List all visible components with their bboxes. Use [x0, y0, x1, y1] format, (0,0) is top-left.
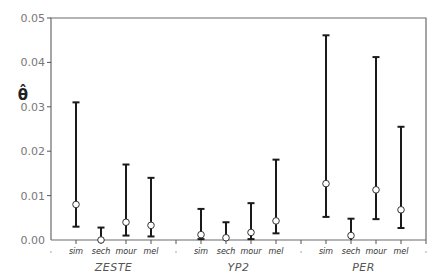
- errorbar-per-sech: [348, 219, 355, 240]
- y-tick-label: 0.00: [21, 234, 46, 247]
- group-label-yp2: YP2: [228, 261, 250, 274]
- x-tick-label-sim: sim: [319, 247, 333, 256]
- x-tick-spacer-dot: [50, 251, 52, 253]
- x-tick-label-sim: sim: [69, 247, 83, 256]
- errorbar-zeste-mel: [148, 178, 155, 237]
- group-label-zeste: ZESTE: [94, 261, 133, 274]
- x-tick-spacer-dot: [175, 251, 177, 253]
- estimate-marker: [273, 218, 280, 225]
- y-axis-label: θ̂: [18, 84, 28, 104]
- x-tick-label-sech: sech: [217, 247, 236, 256]
- estimate-marker: [223, 234, 230, 241]
- x-tick-label-mour: mour: [240, 247, 262, 256]
- x-tick-label-sech: sech: [342, 247, 361, 256]
- estimate-marker: [123, 219, 130, 226]
- y-tick-label: 0.04: [21, 56, 46, 69]
- errorbar-zeste-mour: [123, 165, 130, 236]
- errorbar-per-mour: [373, 57, 380, 219]
- x-tick-spacer-dot: [300, 251, 302, 253]
- x-tick-label-mel: mel: [269, 247, 285, 256]
- errorbar-zeste-sech: [98, 228, 105, 244]
- y-tick-label: 0.01: [21, 190, 46, 203]
- errorbar-zeste-sim: [73, 102, 80, 226]
- error-bars: [73, 35, 405, 243]
- estimate-marker: [198, 231, 205, 238]
- errorbar-yp2-mel: [273, 160, 280, 234]
- axes: [51, 18, 426, 240]
- y-tick-label: 0.02: [21, 145, 46, 158]
- estimate-marker: [248, 229, 255, 236]
- group-label-per: PER: [352, 261, 375, 274]
- x-tick-label-mour: mour: [365, 247, 387, 256]
- x-tick-spacer-dot: [425, 251, 427, 253]
- group-labels: ZESTEYP2PER: [94, 261, 375, 274]
- error-bar-chart: 0.000.010.020.030.040.05 simsechmourmels…: [0, 0, 439, 280]
- y-tick-label: 0.05: [21, 12, 46, 25]
- estimate-marker: [98, 237, 105, 244]
- x-axis-ticks: simsechmourmelsimsechmourmelsimsechmourm…: [50, 240, 427, 256]
- estimate-marker: [348, 232, 355, 239]
- estimate-marker: [398, 207, 405, 214]
- errorbar-per-mel: [398, 127, 405, 228]
- plot-frame: [51, 18, 426, 240]
- x-tick-label-mel: mel: [394, 247, 410, 256]
- estimate-marker: [73, 201, 80, 208]
- errorbar-yp2-sech: [223, 222, 230, 241]
- errorbar-per-sim: [323, 35, 330, 217]
- x-tick-label-sim: sim: [194, 247, 208, 256]
- x-tick-label-sech: sech: [92, 247, 111, 256]
- x-tick-label-mel: mel: [144, 247, 160, 256]
- x-tick-label-mour: mour: [115, 247, 137, 256]
- estimate-marker: [323, 180, 330, 187]
- estimate-marker: [373, 187, 380, 194]
- y-axis-ticks: 0.000.010.020.030.040.05: [21, 12, 52, 247]
- estimate-marker: [148, 222, 155, 229]
- errorbar-yp2-sim: [198, 209, 205, 239]
- errorbar-yp2-mour: [248, 203, 255, 239]
